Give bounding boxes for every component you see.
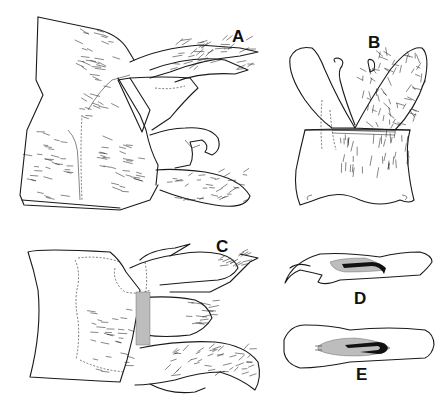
panel-label-c: C	[216, 238, 228, 255]
panel-b-drawing	[290, 47, 427, 205]
panel-c-setae	[87, 249, 257, 376]
panel-label-a: A	[232, 28, 244, 45]
illustration-canvas	[0, 0, 448, 405]
panel-c-drawing	[28, 244, 259, 393]
panel-e-drawing	[284, 325, 434, 368]
panel-b-setae	[341, 47, 426, 178]
figure-plate: A B C D E	[0, 0, 448, 405]
panel-d-drawing	[285, 252, 432, 284]
panel-a-drawing	[20, 17, 258, 210]
panel-label-d: D	[354, 290, 366, 307]
panel-label-e: E	[356, 366, 367, 383]
panel-label-b: B	[368, 34, 380, 51]
